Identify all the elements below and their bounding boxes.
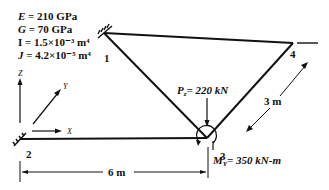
horizontal-dimension-label: 6 m	[108, 166, 125, 178]
fixed-support-1	[98, 24, 112, 38]
svg-text:G = 70 GPa: G = 70 GPa	[18, 23, 73, 35]
y-axis-label: Y	[63, 82, 69, 91]
x-axis-label: X	[66, 127, 73, 136]
diagonal-dimension-label: 3 m	[264, 95, 281, 107]
node-1-label: 1	[104, 52, 110, 64]
node-2-label: 2	[26, 148, 32, 160]
svg-text:I = 1.5×10⁻³ m⁴: I = 1.5×10⁻³ m⁴	[18, 36, 90, 48]
moment-label: MY= 350 kN-m	[212, 154, 281, 168]
force-label: Pz= 220 kN	[177, 84, 229, 98]
svg-text:J = 4.2×10⁻⁵ m⁴: J = 4.2×10⁻⁵ m⁴	[17, 49, 91, 61]
coordinate-axes	[18, 78, 63, 134]
grid-structure-diagram: E = 210 GPa G = 70 GPa I = 1.5×10⁻³ m⁴ J…	[0, 0, 329, 190]
svg-text:E = 210 GPa: E = 210 GPa	[17, 10, 78, 22]
force-arrow	[205, 98, 210, 127]
material-properties: E = 210 GPa G = 70 GPa I = 1.5×10⁻³ m⁴ J…	[17, 10, 91, 61]
node-4-label: 4	[290, 48, 296, 60]
member-2-3	[20, 138, 207, 139]
z-axis-label: Z	[18, 69, 23, 78]
member-1-4	[104, 33, 293, 43]
